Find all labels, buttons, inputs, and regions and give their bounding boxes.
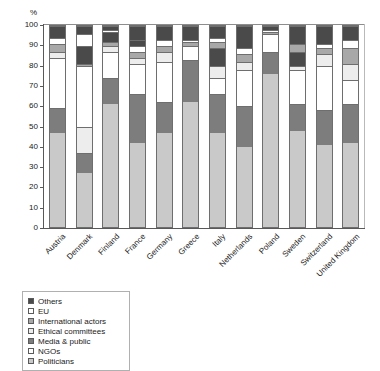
bar-segment[interactable] [343,143,358,227]
bar-column[interactable] [156,25,173,228]
legend-item[interactable]: NGOs [28,346,124,356]
bar-segment[interactable] [210,48,225,66]
y-axis-tick-label: 40 [12,143,38,151]
stacked-bar[interactable] [209,25,226,228]
bar-segment[interactable] [263,34,278,52]
bar-segment[interactable] [210,26,225,38]
bar-segment[interactable] [50,108,65,132]
bar-column[interactable] [76,25,93,228]
bar-column[interactable] [289,25,306,228]
bar-segment[interactable] [343,64,358,80]
bar-segment[interactable] [317,26,332,44]
stacked-bar[interactable] [182,25,199,228]
bar-segment[interactable] [290,26,305,44]
stacked-bar[interactable] [316,25,333,228]
bar-column[interactable] [342,25,359,228]
bar-segment[interactable] [237,106,252,146]
bar-segment[interactable] [237,70,252,106]
stacked-bar[interactable] [289,25,306,228]
bar-segment[interactable] [343,40,358,48]
bar-segment[interactable] [157,52,172,62]
stacked-bar[interactable] [76,25,93,228]
bar-segment[interactable] [317,66,332,110]
bar-segment[interactable] [343,80,358,104]
bar-column[interactable] [316,25,333,228]
stacked-bar[interactable] [342,25,359,228]
bar-segment[interactable] [290,52,305,66]
bar-segment[interactable] [317,54,332,66]
bar-column[interactable] [129,25,146,228]
bar-segment[interactable] [210,66,225,78]
bar-segment[interactable] [103,52,118,78]
bar-segment[interactable] [77,173,92,227]
chart-legend: OthersEUInternational actorsEthical comm… [22,291,130,371]
bar-segment[interactable] [183,26,198,40]
bar-column[interactable] [49,25,66,228]
bar-segment[interactable] [237,54,252,62]
bar-segment[interactable] [50,44,65,52]
bar-segment[interactable] [77,26,92,34]
bar-segment[interactable] [77,127,92,153]
bar-segment[interactable] [317,110,332,144]
stacked-bar[interactable] [129,25,146,228]
bar-segment[interactable] [77,46,92,64]
stacked-bar[interactable] [49,25,66,228]
bar-segment[interactable] [237,147,252,227]
bar-segment[interactable] [77,153,92,173]
bar-segment[interactable] [130,64,145,94]
bar-segment[interactable] [343,104,358,142]
bar-segment[interactable] [77,66,92,126]
bar-segment[interactable] [183,60,198,102]
stacked-bar[interactable] [236,25,253,228]
bar-segment[interactable] [130,26,145,40]
bar-segment[interactable] [183,46,198,60]
bar-segment[interactable] [103,32,118,42]
bar-segment[interactable] [50,26,65,38]
bar-segment[interactable] [263,52,278,74]
bar-segment[interactable] [77,34,92,46]
bar-segment[interactable] [343,26,358,40]
bar-segment[interactable] [290,104,305,130]
bar-segment[interactable] [317,145,332,227]
bar-segment[interactable] [290,70,305,104]
y-axis-tick-label: 90 [12,41,38,49]
bar-column[interactable] [182,25,199,228]
x-axis-label: France [124,232,148,256]
bar-segment[interactable] [50,58,65,108]
bar-segment[interactable] [157,26,172,40]
bar-segment[interactable] [157,102,172,132]
bar-segment[interactable] [343,48,358,64]
bar-segment[interactable] [210,78,225,94]
bar-segment[interactable] [290,131,305,227]
legend-item[interactable]: Media & public [28,336,124,346]
stacked-bar[interactable] [156,25,173,228]
bar-segment[interactable] [103,104,118,227]
bar-segment[interactable] [103,78,118,104]
bar-column[interactable] [262,25,279,228]
x-axis-label: Finland [96,232,121,257]
legend-item[interactable]: Politicians [28,356,124,366]
bar-segment[interactable] [210,94,225,132]
legend-item[interactable]: Others [28,296,124,306]
bar-segment[interactable] [130,94,145,142]
bar-column[interactable] [102,25,119,228]
bar-column[interactable] [236,25,253,228]
stacked-bar[interactable] [262,25,279,228]
stacked-bar[interactable] [102,25,119,228]
legend-swatch-icon [28,298,34,304]
bar-segment[interactable] [290,44,305,52]
bar-segment[interactable] [130,143,145,227]
bar-segment[interactable] [157,133,172,227]
legend-item[interactable]: EU [28,306,124,316]
bar-column[interactable] [209,25,226,228]
bar-segment[interactable] [210,133,225,227]
legend-label: Media & public [38,337,90,346]
bar-segment[interactable] [263,74,278,227]
bar-segment[interactable] [157,62,172,102]
bar-segment[interactable] [50,133,65,227]
legend-item[interactable]: Ethical committees [28,326,124,336]
bar-segment[interactable] [237,62,252,70]
bar-segment[interactable] [237,26,252,48]
legend-item[interactable]: International actors [28,316,124,326]
bar-segment[interactable] [183,102,198,227]
